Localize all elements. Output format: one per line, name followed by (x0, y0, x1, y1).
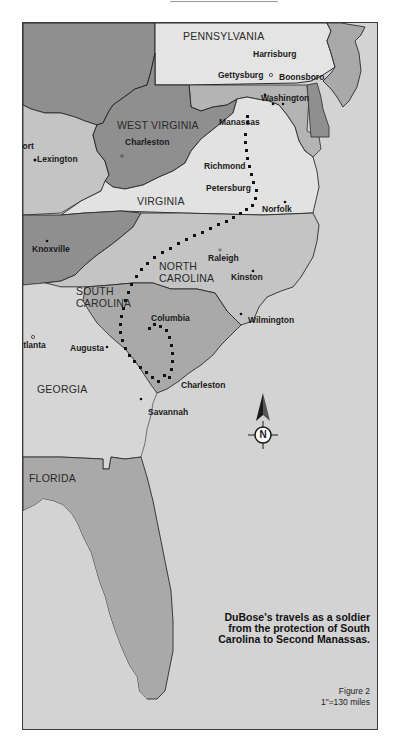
map-caption: DuBose's travels as a soldier from the p… (218, 612, 370, 645)
city-label-savannah: Savannah (148, 407, 188, 417)
compass-rose (248, 393, 278, 449)
city-label-kinston: Kinston (231, 272, 263, 282)
city-label-charleston-sc: Charleston (181, 380, 225, 390)
compass-arrow-icon (256, 393, 263, 421)
city-label-manassas: Manassas (219, 117, 260, 127)
figure-label: Figure 2 (321, 686, 370, 697)
state-label-florida: FLORIDA (29, 472, 76, 484)
scale-label: 1"=130 miles (321, 697, 370, 708)
city-label-norfolk: Norfolk (262, 204, 292, 214)
city-label-frankfort: kfort (22, 141, 34, 151)
city-label-raleigh: Raleigh (208, 253, 239, 263)
city-label-washington: Washington (261, 93, 309, 103)
city-label-lexington: Lexington (37, 154, 78, 164)
state-label-south-carolina: SOUTH CAROLINA (76, 285, 131, 309)
city-label-wilmington: Wilmington (248, 315, 294, 325)
city-label-charleston-wv: Charleston (125, 137, 169, 147)
state-label-pennsylvania: PENNSYLVANIA (183, 30, 264, 42)
city-label-knoxville: Knoxville (32, 244, 70, 254)
state-label-georgia: GEORGIA (37, 383, 87, 395)
region-delaware (307, 83, 329, 137)
city-label-petersburg: Petersburg (206, 183, 251, 193)
city-label-richmond: Richmond (204, 161, 246, 171)
city-label-gettysburg: Gettysburg (218, 70, 263, 80)
state-label-west-virginia: WEST VIRGINIA (117, 119, 199, 131)
state-label-north-carolina: NORTH CAROLINA (159, 260, 214, 284)
compass-north-label: N (259, 429, 267, 440)
city-label-atlanta: Atlanta (22, 340, 46, 350)
city-label-boonsboro: Boonsboro (279, 72, 324, 82)
city-label-harrisburg: Harrisburg (253, 49, 296, 59)
top-rule (170, 1, 278, 2)
state-label-virginia: VIRGINIA (137, 195, 185, 207)
city-label-columbia: Columbia (151, 313, 190, 323)
city-label-augusta: Augusta (70, 343, 104, 353)
figure-info: Figure 2 1"=130 miles (321, 686, 370, 708)
